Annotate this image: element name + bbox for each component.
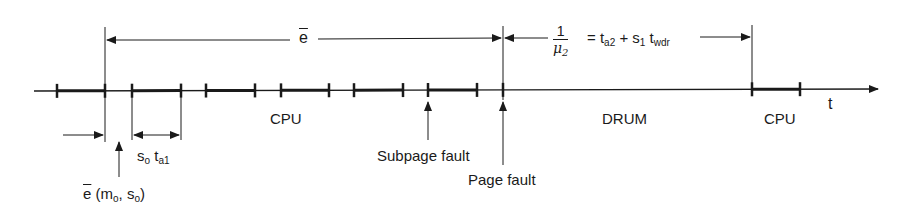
ta2-sub: a2 <box>604 37 615 48</box>
eq-t: = t <box>587 29 604 46</box>
e-bar-arrow-right <box>318 38 501 39</box>
segment-cpu-left: CPU <box>270 111 302 126</box>
e-bar-label: e <box>299 30 308 46</box>
mu-symbol: μ <box>553 40 562 56</box>
wdr-sub: wdr <box>654 37 670 48</box>
mu-sub: 2 <box>562 47 568 58</box>
mu-numerator: 1 <box>553 24 568 40</box>
close: ) <box>140 185 145 202</box>
a1-sub: a1 <box>158 155 169 166</box>
subpage-fault-label: Subpage fault <box>377 148 470 163</box>
mu-fraction: 1 μ2 <box>553 24 568 58</box>
segment-drum: DRUM <box>602 111 647 126</box>
e-func-label: e (mo, so) <box>83 186 145 204</box>
so-ta1-label: so ta1 <box>137 148 170 166</box>
s: s <box>137 147 145 164</box>
t-wdr: t <box>645 29 653 46</box>
page-fault-label: Page fault <box>468 172 536 187</box>
segment-cpu-right: CPU <box>764 111 796 126</box>
open: (m <box>91 185 113 202</box>
mu-rhs-expression: = ta2 + s1 twdr <box>587 30 670 48</box>
plus-s: + s <box>615 29 640 46</box>
axis-label-t: t <box>828 96 832 112</box>
timeline-diagram <box>0 0 908 215</box>
mu-denominator: μ2 <box>553 40 568 58</box>
mid: , s <box>119 185 135 202</box>
